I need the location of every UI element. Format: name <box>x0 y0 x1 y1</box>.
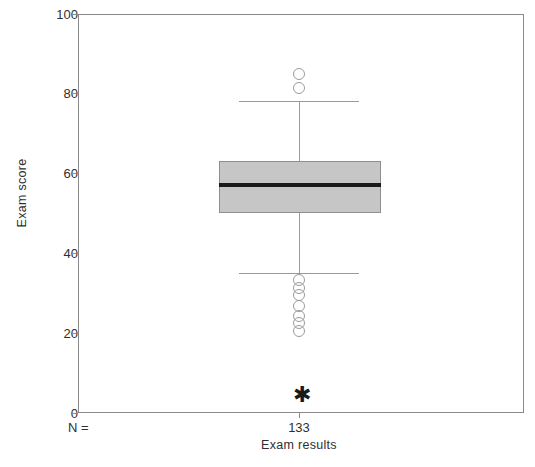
y-tick-label-100: 100 <box>32 8 78 21</box>
y-tick-label-20: 20 <box>32 327 78 340</box>
y-axis-title: Exam score <box>15 133 29 253</box>
y-tick-label-40: 40 <box>32 247 78 260</box>
x-axis-tick-mark <box>299 413 300 418</box>
n-equals-label: N = <box>68 420 89 435</box>
y-tick-label-60: 60 <box>32 167 78 180</box>
boxplot-figure: 100 80 60 40 20 0 Exam score <box>0 0 535 467</box>
y-tick-label-80: 80 <box>32 87 78 100</box>
x-axis-title: Exam results <box>219 438 379 452</box>
y-axis-tick-labels: 100 80 60 40 20 0 <box>0 0 78 467</box>
y-tick-label-0: 0 <box>32 407 78 420</box>
y-tick-mark-0 <box>73 413 78 414</box>
n-value-label: 133 <box>249 420 349 435</box>
plot-frame <box>78 14 524 413</box>
